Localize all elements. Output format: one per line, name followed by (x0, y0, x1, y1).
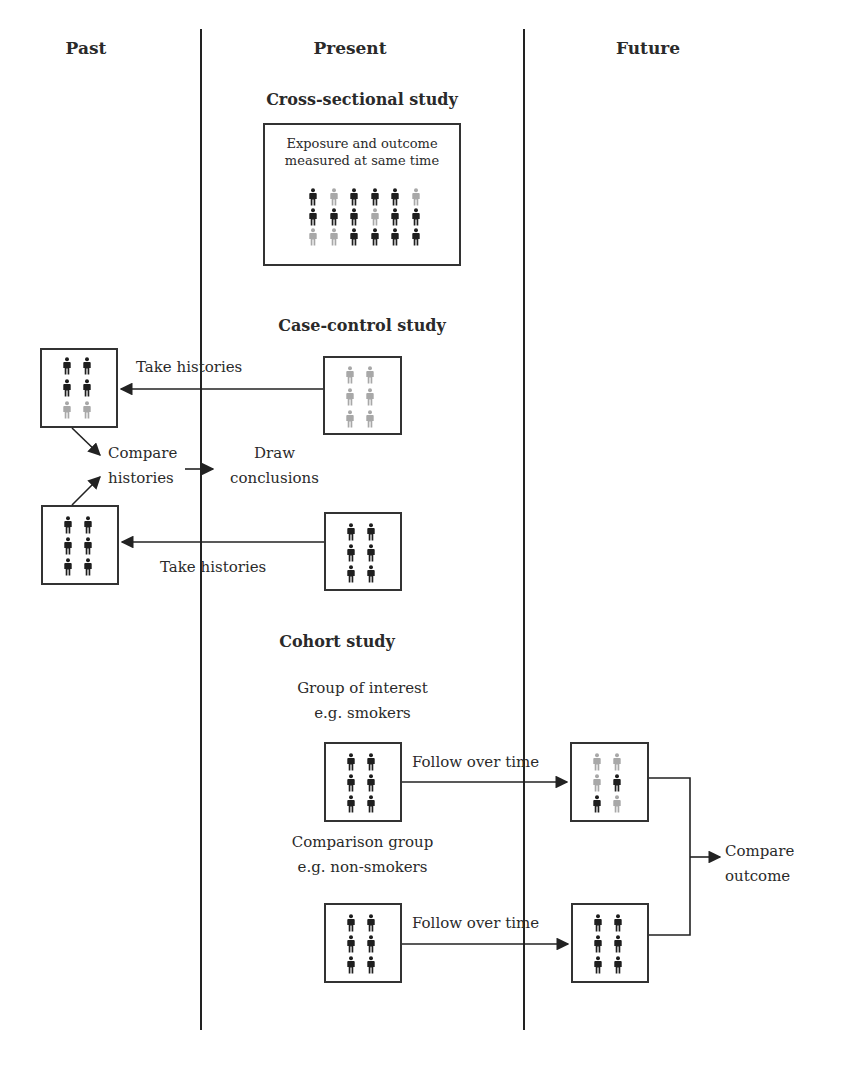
column-header-present: Present (270, 38, 430, 58)
person-icon-dark (385, 207, 405, 227)
follow-over-time-bottom-label: Follow over time (412, 913, 539, 933)
people-grid (588, 913, 628, 976)
person-icon-dark (365, 187, 385, 207)
person-icon-dark (77, 378, 97, 398)
person-icon-dark (341, 913, 361, 933)
person-icon-light (324, 227, 344, 247)
person-icon-light (340, 409, 360, 429)
person-icon-dark (58, 557, 78, 577)
compare-histories-label-1: Compare (108, 443, 177, 463)
take-histories-top-label: Take histories (136, 357, 242, 377)
compare-outcome-label-1: Compare (725, 841, 794, 861)
person-icon-light (77, 400, 97, 420)
follow-over-time-top-label: Follow over time (412, 752, 539, 772)
people-grid (341, 913, 381, 976)
person-icon-dark (385, 187, 405, 207)
column-header-future: Future (568, 38, 728, 58)
person-icon-dark (341, 564, 361, 584)
case-control-past-top-box (40, 348, 118, 428)
person-icon-light (303, 227, 323, 247)
person-icon-light (340, 387, 360, 407)
divider-past-present (200, 29, 202, 1030)
person-icon-dark (608, 934, 628, 954)
person-icon-dark (303, 207, 323, 227)
person-icon-dark (57, 378, 77, 398)
person-icon-dark (361, 934, 381, 954)
person-icon-dark (361, 955, 381, 975)
person-icon-dark (324, 207, 344, 227)
compare-from-bottom-arrow (72, 477, 100, 505)
person-icon-dark (361, 794, 381, 814)
draw-conclusions-label-2: conclusions (222, 468, 327, 488)
person-icon-dark (588, 913, 608, 933)
people-grid (57, 356, 97, 422)
compare-histories-label-2: histories (108, 468, 174, 488)
case-control-present-top-box (323, 356, 402, 435)
person-icon-dark (58, 515, 78, 535)
person-icon-dark (608, 955, 628, 975)
person-icon-dark (77, 356, 97, 376)
person-icon-light (360, 365, 380, 385)
person-icon-dark (365, 227, 385, 247)
person-icon-light (406, 187, 426, 207)
cohort-present-top-box (324, 742, 402, 822)
compare-from-top-arrow (72, 428, 100, 455)
person-icon-dark (587, 794, 607, 814)
take-histories-bottom-label: Take histories (160, 557, 266, 577)
person-icon-light (365, 207, 385, 227)
person-icon-dark (607, 773, 627, 793)
person-icon-dark (344, 207, 364, 227)
people-grid (587, 752, 627, 815)
person-icon-light (57, 400, 77, 420)
person-icon-dark (361, 564, 381, 584)
person-icon-dark (608, 913, 628, 933)
person-icon-dark (78, 536, 98, 556)
person-icon-light (607, 794, 627, 814)
cross-sectional-people-grid (303, 187, 426, 247)
person-icon-light (587, 752, 607, 772)
person-icon-dark (341, 543, 361, 563)
compare-outcome-bracket (649, 778, 690, 935)
person-icon-light (607, 752, 627, 772)
person-icon-dark (361, 543, 381, 563)
people-grid (340, 365, 380, 431)
divider-present-future (523, 29, 525, 1030)
person-icon-light (360, 387, 380, 407)
person-icon-dark (361, 913, 381, 933)
compare-outcome-label-2: outcome (725, 866, 790, 886)
people-grid (341, 522, 381, 585)
people-grid (58, 515, 98, 578)
person-icon-dark (341, 522, 361, 542)
person-icon-dark (303, 187, 323, 207)
person-icon-light (360, 409, 380, 429)
cohort-present-bottom-box (324, 903, 402, 983)
cohort-future-top-box (570, 742, 649, 822)
person-icon-dark (588, 934, 608, 954)
person-icon-dark (341, 955, 361, 975)
case-control-title: Case-control study (212, 316, 512, 335)
person-icon-dark (57, 356, 77, 376)
person-icon-light (340, 365, 360, 385)
person-icon-dark (406, 227, 426, 247)
person-icon-dark (361, 522, 381, 542)
cohort-title: Cohort study (262, 632, 412, 651)
column-header-past: Past (6, 38, 166, 58)
comparison-group-label-1: Comparison group (275, 832, 450, 852)
draw-conclusions-label-1: Draw (222, 443, 327, 463)
person-icon-dark (344, 227, 364, 247)
person-icon-dark (361, 752, 381, 772)
person-icon-dark (406, 207, 426, 227)
group-of-interest-label-2: e.g. smokers (280, 703, 445, 723)
person-icon-light (587, 773, 607, 793)
person-icon-dark (341, 752, 361, 772)
person-icon-dark (341, 794, 361, 814)
person-icon-dark (58, 536, 78, 556)
person-icon-dark (588, 955, 608, 975)
person-icon-light (324, 187, 344, 207)
case-control-past-bottom-box (41, 505, 119, 585)
group-of-interest-label-1: Group of interest (280, 678, 445, 698)
cross-sectional-box: Exposure and outcome measured at same ti… (263, 123, 461, 266)
cross-sectional-title: Cross-sectional study (212, 90, 512, 109)
person-icon-dark (344, 187, 364, 207)
person-icon-dark (78, 557, 98, 577)
